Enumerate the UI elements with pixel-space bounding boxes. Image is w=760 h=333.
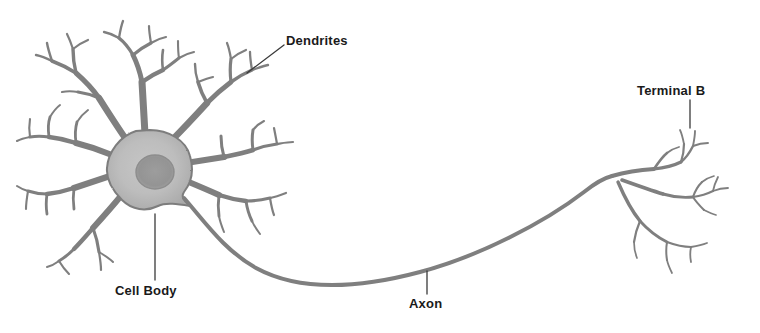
label-dendrites: Dendrites [286,34,348,47]
label-cell-body: Cell Body [115,284,177,297]
soma-group [107,130,192,209]
label-axon: Axon [409,297,442,310]
neuron-illustration [0,0,760,333]
nucleus-shape [136,155,174,189]
neuron-diagram-canvas: Dendrites Cell Body Axon Terminal B [0,0,760,333]
label-terminal-buttons: Terminal B [637,84,705,97]
